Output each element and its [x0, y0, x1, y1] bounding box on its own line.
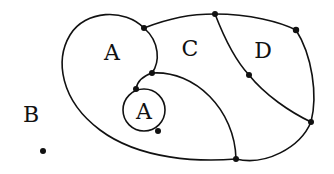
node [246, 72, 252, 78]
region-label-a-inner: A [135, 99, 153, 124]
edge-a-c-boundary [144, 28, 157, 73]
edge-n2-n3 [136, 73, 152, 89]
node [155, 128, 161, 134]
edge-right-arc [236, 30, 314, 161]
region-label-b: B [23, 102, 39, 127]
node [233, 156, 239, 162]
node [308, 119, 314, 125]
region-label-c: C [182, 36, 199, 61]
nodes [40, 11, 314, 162]
node [293, 27, 299, 33]
node [149, 70, 155, 76]
map-diagram: A C D A B [0, 0, 334, 174]
isolated-point [40, 148, 46, 154]
node [133, 86, 139, 92]
node [141, 25, 147, 31]
region-label-a-outer: A [103, 40, 121, 65]
region-label-d: D [254, 38, 272, 63]
node [212, 11, 218, 17]
edge-outer-loop [62, 14, 236, 160]
